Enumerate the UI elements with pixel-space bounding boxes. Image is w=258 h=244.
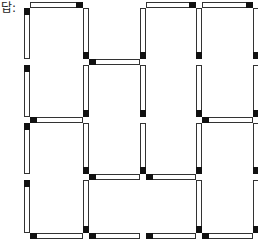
match-head-icon xyxy=(202,117,209,123)
matchstick-horizontal[interactable] xyxy=(30,233,83,239)
matchstick-horizontal[interactable] xyxy=(146,174,196,180)
matchstick-horizontal[interactable] xyxy=(202,233,253,239)
matchstick-horizontal[interactable] xyxy=(146,2,196,8)
match-head-icon xyxy=(196,52,202,59)
match-head-icon xyxy=(253,167,258,174)
matchstick-horizontal[interactable] xyxy=(202,2,253,8)
matchstick-horizontal[interactable] xyxy=(89,59,140,65)
match-head-icon xyxy=(89,174,96,180)
match-head-icon xyxy=(24,8,30,15)
matchstick-vertical[interactable] xyxy=(140,123,146,174)
matchstick-horizontal[interactable] xyxy=(30,117,83,123)
match-head-icon xyxy=(146,233,153,239)
matchstick-vertical[interactable] xyxy=(140,65,146,117)
match-head-icon xyxy=(140,110,146,117)
match-head-icon xyxy=(246,2,253,8)
matchstick-vertical[interactable] xyxy=(24,123,30,174)
matchstick-vertical[interactable] xyxy=(140,8,146,59)
match-head-icon xyxy=(253,52,258,59)
matchstick-vertical[interactable] xyxy=(196,180,202,233)
matchstick-vertical[interactable] xyxy=(83,123,89,174)
matchstick-vertical[interactable] xyxy=(253,123,258,174)
answer-label: 답: xyxy=(1,1,16,15)
match-head-icon xyxy=(146,174,153,180)
match-head-icon xyxy=(196,226,202,233)
matchstick-horizontal[interactable] xyxy=(30,2,83,8)
matchstick-horizontal[interactable] xyxy=(89,233,140,239)
matchstick-vertical[interactable] xyxy=(196,65,202,117)
match-head-icon xyxy=(140,52,146,59)
match-head-icon xyxy=(189,2,196,8)
match-head-icon xyxy=(140,167,146,174)
match-head-icon xyxy=(83,52,89,59)
matchstick-horizontal[interactable] xyxy=(146,233,196,239)
matchstick-vertical[interactable] xyxy=(24,65,30,117)
matchstick-vertical[interactable] xyxy=(83,180,89,233)
match-head-icon xyxy=(76,2,83,8)
match-head-icon xyxy=(196,167,202,174)
match-head-icon xyxy=(83,226,89,233)
match-head-icon xyxy=(89,59,96,65)
matchstick-vertical[interactable] xyxy=(253,65,258,117)
match-head-icon xyxy=(24,65,30,72)
match-head-icon xyxy=(202,233,209,239)
match-head-icon xyxy=(196,110,202,117)
matchstick-horizontal[interactable] xyxy=(202,117,253,123)
match-head-icon xyxy=(83,167,89,174)
match-head-icon xyxy=(253,110,258,117)
match-head-icon xyxy=(253,226,258,233)
match-head-icon xyxy=(24,123,30,130)
match-head-icon xyxy=(83,110,89,117)
matchstick-horizontal[interactable] xyxy=(89,174,140,180)
match-head-icon xyxy=(89,233,96,239)
match-head-icon xyxy=(30,233,37,239)
matchstick-vertical[interactable] xyxy=(196,123,202,174)
matchstick-vertical[interactable] xyxy=(24,8,30,59)
matchstick-vertical[interactable] xyxy=(83,8,89,59)
matchstick-vertical[interactable] xyxy=(196,8,202,59)
match-head-icon xyxy=(24,180,30,187)
matchstick-vertical[interactable] xyxy=(253,180,258,233)
matchstick-vertical[interactable] xyxy=(24,180,30,233)
matchstick-vertical[interactable] xyxy=(253,8,258,59)
matchstick-vertical[interactable] xyxy=(83,65,89,117)
match-head-icon xyxy=(30,117,37,123)
